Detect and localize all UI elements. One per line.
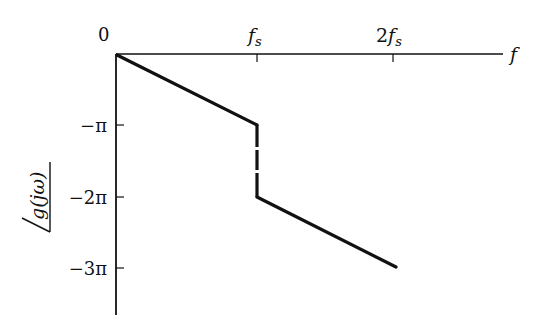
2fs-coef: 2 — [376, 24, 388, 46]
y-tick-label-pi: −π — [80, 115, 107, 136]
x-tick-label-fs: fs — [246, 24, 262, 49]
y-axis-fn: g(jω) — [26, 172, 48, 220]
x-tick-label-2fs: 2fs — [376, 24, 402, 49]
phase-segment-1 — [117, 55, 257, 125]
fs-sub: s — [255, 34, 262, 49]
phase-diagram: 0 fs 2fs f −π −2π −3π g(jω) — [0, 0, 545, 328]
origin-label: 0 — [98, 24, 109, 45]
y-tick-label-3pi: −3π — [69, 258, 108, 279]
y-tick-label-2pi: −2π — [69, 187, 108, 208]
y-axis-label: g(jω) — [22, 162, 50, 232]
phase-segment-2 — [257, 197, 396, 267]
x-axis-label: f — [508, 43, 520, 65]
2fs-sub: s — [395, 34, 402, 49]
